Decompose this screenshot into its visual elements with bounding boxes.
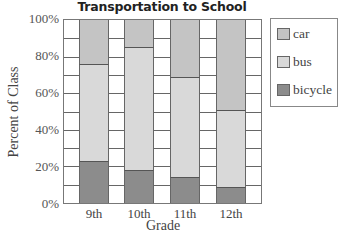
bar-segment-bus (216, 110, 246, 187)
legend-label: car (293, 26, 309, 42)
bar-segment-bicycle (170, 177, 200, 203)
legend: carbusbicycle (270, 18, 338, 107)
legend-item-bicycle: bicycle (277, 83, 332, 97)
bar-segment-bus (124, 47, 154, 170)
legend-swatch-icon (277, 84, 290, 96)
legend-item-bus: bus (277, 55, 312, 69)
legend-label: bicycle (293, 82, 332, 98)
x-tick-label: 12th (211, 206, 251, 222)
y-tick-label: 0% (0, 196, 59, 212)
legend-item-car: car (277, 27, 309, 41)
bar-segment-car (216, 20, 246, 110)
bar-segment-car (124, 20, 154, 47)
x-tick-label: 9th (74, 206, 114, 222)
legend-swatch-icon (277, 28, 290, 40)
bar-9th (79, 20, 109, 203)
legend-label: bus (293, 54, 312, 70)
y-tick-label: 20% (0, 159, 59, 175)
bar-10th (124, 20, 154, 203)
bar-12th (216, 20, 246, 203)
y-tick-label: 100% (0, 11, 59, 27)
bar-segment-car (170, 20, 200, 77)
y-axis-label: Percent of Class (6, 67, 22, 158)
plot-area (63, 19, 262, 204)
bar-11th (170, 20, 200, 203)
x-axis-label: Grade (146, 218, 180, 234)
bar-segment-bicycle (79, 161, 109, 203)
y-tick-label: 80% (0, 48, 59, 64)
y-tick-label: 60% (0, 85, 59, 101)
bar-segment-bus (79, 64, 109, 161)
legend-swatch-icon (277, 56, 290, 68)
bar-segment-bicycle (124, 170, 154, 203)
y-tick-label: 40% (0, 122, 59, 138)
bar-segment-car (79, 20, 109, 64)
bar-segment-bicycle (216, 187, 246, 203)
chart-title: Transportation to School (62, 0, 262, 14)
bar-segment-bus (170, 77, 200, 178)
